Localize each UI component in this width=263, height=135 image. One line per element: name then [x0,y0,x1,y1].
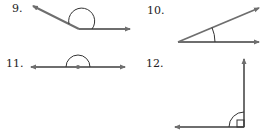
ray-up-left [33,6,79,29]
ray-up-right [178,8,259,42]
figure-10-acute-angle [178,8,259,42]
figure-9-obtuse-angle [33,6,130,29]
angle-arc-icon [212,28,215,43]
vertex-dot-icon [76,65,80,69]
right-angle-square-icon [237,120,244,127]
figure-12-right-angle [175,59,244,127]
angle-figures [0,0,263,135]
figure-11-straight-angle [31,55,125,69]
